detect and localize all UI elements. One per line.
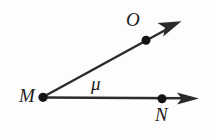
point-label-n: N xyxy=(155,105,168,124)
ray-mn xyxy=(43,92,199,104)
point-n-dot xyxy=(158,94,167,103)
point-label-o: O xyxy=(126,10,140,29)
ray-mo-arrowhead xyxy=(158,21,182,36)
ray-mo xyxy=(43,21,182,97)
angle-diagram-figure: M O N μ xyxy=(0,0,209,138)
point-label-m: M xyxy=(19,86,35,105)
ray-mo-line xyxy=(43,28,170,98)
point-o-dot xyxy=(142,36,151,45)
diagram-canvas xyxy=(0,0,209,138)
point-m-dot xyxy=(38,93,47,102)
angle-measure-label: μ xyxy=(91,74,101,93)
